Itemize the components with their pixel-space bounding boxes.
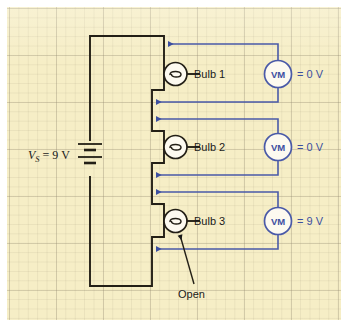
vm2-lead-bottom xyxy=(156,161,278,175)
wire-bulb2-to-bulb3 xyxy=(152,147,164,221)
voltmeter-1-reading: = 0 V xyxy=(297,68,324,80)
bulb-1-group[interactable]: Bulb 1 xyxy=(164,63,225,86)
voltmeter-1-label: VM xyxy=(271,69,285,80)
bulb-1-label: Bulb 1 xyxy=(194,68,225,80)
circuit-diagram-figure: VS= 9 V Bulb 1 Bulb 2 Bulb 3 xyxy=(0,0,348,329)
open-callout-leader xyxy=(180,235,194,284)
vm3-lead-bottom xyxy=(156,235,278,249)
battery-symbol xyxy=(78,144,102,163)
voltmeter-1-group[interactable]: VM = 0 V xyxy=(265,61,324,88)
bulb-3-envelope xyxy=(164,210,187,233)
voltmeter-3-reading: = 9 V xyxy=(297,215,324,227)
voltmeter-2-reading: = 0 V xyxy=(297,141,324,153)
bulb-2-group[interactable]: Bulb 2 xyxy=(164,136,225,159)
circuit-overlay: VS= 9 V Bulb 1 Bulb 2 Bulb 3 xyxy=(0,0,348,329)
bulb-1-envelope xyxy=(164,63,187,86)
voltmeter-3-group[interactable]: VM = 9 V xyxy=(265,208,324,235)
bulb-3-label: Bulb 3 xyxy=(194,215,225,227)
voltmeter-2-label: VM xyxy=(271,142,285,153)
voltmeter-2-group[interactable]: VM = 0 V xyxy=(265,134,324,161)
bulb-2-label: Bulb 2 xyxy=(194,141,225,153)
source-label: VS= 9 V xyxy=(28,148,70,164)
vm1-lead-top xyxy=(168,44,278,60)
open-callout-label: Open xyxy=(178,288,205,300)
vm2-lead-top xyxy=(156,119,278,133)
open-callout-group: Open xyxy=(178,235,205,300)
bulb-3-group[interactable]: Bulb 3 xyxy=(164,210,225,233)
bulb-2-envelope xyxy=(164,136,187,159)
vm3-lead-top xyxy=(156,192,278,207)
voltmeter-3-label: VM xyxy=(271,216,285,227)
vm1-lead-bottom xyxy=(156,88,278,102)
wire-bulb1-to-bulb2 xyxy=(152,74,164,147)
